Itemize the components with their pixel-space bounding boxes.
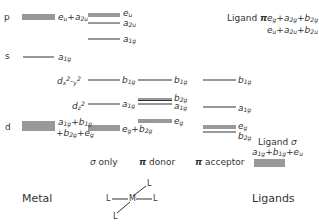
ligand-sigma-line1: a1g+b1g+eu [252,147,303,159]
metal-d-label: d [5,122,11,132]
dx2y2-label: dx2-y2 [57,74,81,88]
dz2-label: dz2 [72,99,85,113]
metal-p-symmetry: eu+a2u [58,12,88,24]
sigma-a2u: a2u [123,18,136,30]
column-pi-acceptor: π acceptor [195,157,244,167]
structure-metal: M [129,194,136,204]
donor-b1g: b1g [174,75,187,87]
metal-s-symmetry: a1g [58,52,71,64]
metal-p-label: p [4,12,10,22]
ligand-sigma-title: Ligand σ [258,137,297,147]
structure-ligand-top: L [147,179,151,189]
sigma-a1g: a1g [122,99,135,111]
metal-label: Metal [22,193,52,205]
donor-eg: eg [174,116,183,128]
metal-s-label: s [5,51,10,61]
ligands-label: Ligands [252,193,295,205]
acceptor-b2g: b2g [238,131,251,143]
acceptor-b1g: b1g [238,75,251,87]
donor-a1g: a1g [174,101,187,113]
ligand-pi-title: Ligand π [227,13,267,23]
ligand-pi-line1: eg+a2g+b2g [267,13,318,25]
metal-d-symmetry-2: +b2g+eg [56,128,94,140]
sigma-a1g-top: a1g [123,34,136,46]
column-pi-donor: π donor [139,157,175,167]
sigma-eg-b2g: eg+b2g [122,124,152,136]
structure-ligand-bottom: L [113,212,117,222]
structure-ligand-left: L [106,194,110,204]
acceptor-a1g: a1g [238,103,251,115]
column-sigma-only: σ only [90,157,118,167]
sigma-b1g: b1g [122,75,135,87]
ligand-pi-line2: eu+a2u+b2u [267,25,318,37]
structure-ligand-right: L [153,194,157,204]
